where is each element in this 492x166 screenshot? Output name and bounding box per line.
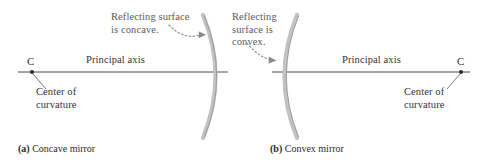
- center-of-curvature-leader-convex: [447, 74, 460, 89]
- annotation-concave-line-1: Reflecting surface: [111, 11, 189, 24]
- convex-pointer-arrowhead: [269, 57, 277, 64]
- concave-mirror-arc: [203, 15, 216, 138]
- center-of-curvature-label-concave: Center of curvature: [36, 86, 77, 111]
- center-of-curvature-concave-line-2: curvature: [36, 99, 77, 112]
- annotation-convex-line-2: surface is: [232, 24, 277, 37]
- center-of-curvature-point-concave: [30, 70, 34, 74]
- mirror-diagram-figure: Reflecting surface is concave. C Princip…: [0, 0, 492, 166]
- caption-concave-mirror: (a) Concave mirror: [18, 143, 95, 155]
- caption-convex-mirror: (b) Convex mirror: [270, 143, 344, 155]
- center-of-curvature-point-convex: [459, 70, 463, 74]
- center-of-curvature-concave-line-1: Center of: [36, 86, 77, 99]
- principal-axis-label-convex: Principal axis: [342, 54, 401, 67]
- caption-marker-b: (b): [270, 143, 282, 154]
- annotation-convex-line-1: Reflecting: [232, 11, 277, 24]
- annotation-concave-line-2: is concave.: [111, 24, 189, 37]
- principal-axis-label-concave: Principal axis: [86, 54, 145, 67]
- caption-text-a: Concave mirror: [32, 143, 95, 154]
- annotation-convex-line-3: convex.: [232, 36, 277, 49]
- caption-text-b: Convex mirror: [285, 143, 344, 154]
- center-marker-label-concave: C: [27, 56, 34, 67]
- center-marker-label-convex: C: [457, 56, 464, 67]
- convex-mirror-arc-edge: [286, 16, 298, 137]
- concave-pointer-arrowhead: [199, 32, 206, 39]
- annotation-reflecting-surface-convex: Reflecting surface is convex.: [232, 11, 277, 49]
- center-of-curvature-label-convex: Center of curvature: [404, 86, 445, 111]
- annotation-reflecting-surface-concave: Reflecting surface is concave.: [111, 11, 189, 36]
- center-of-curvature-convex-line-1: Center of: [404, 86, 445, 99]
- center-of-curvature-convex-line-2: curvature: [404, 99, 445, 112]
- caption-marker-a: (a): [18, 143, 30, 154]
